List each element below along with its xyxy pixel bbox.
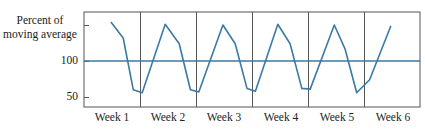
data-line: [111, 22, 391, 93]
week-dividers: [141, 12, 365, 107]
chart-plot: [0, 0, 425, 130]
